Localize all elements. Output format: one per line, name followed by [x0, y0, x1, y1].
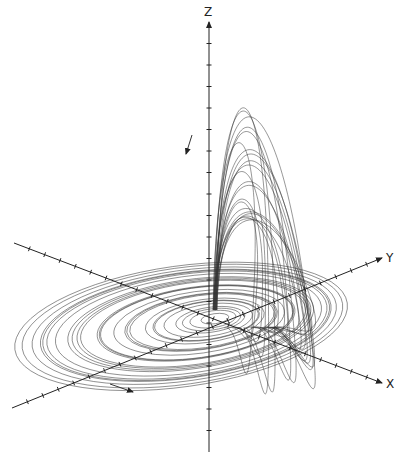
disk-orbit [33, 253, 338, 398]
disk-orbit [36, 254, 337, 397]
x-axis-label: X [386, 377, 394, 391]
z-axis-label: Z [204, 5, 212, 19]
descending-flow-arrow [186, 135, 192, 154]
coordinate-axes [12, 22, 382, 452]
attractor-figure: Z Y X [0, 0, 399, 459]
lobe-orbit [215, 150, 313, 370]
disk-orbit [6, 243, 355, 409]
attractor-trajectories [6, 108, 355, 410]
disk-orbit [181, 305, 242, 334]
y-axis-label: Y [385, 251, 394, 265]
disk-orbit [71, 266, 313, 381]
